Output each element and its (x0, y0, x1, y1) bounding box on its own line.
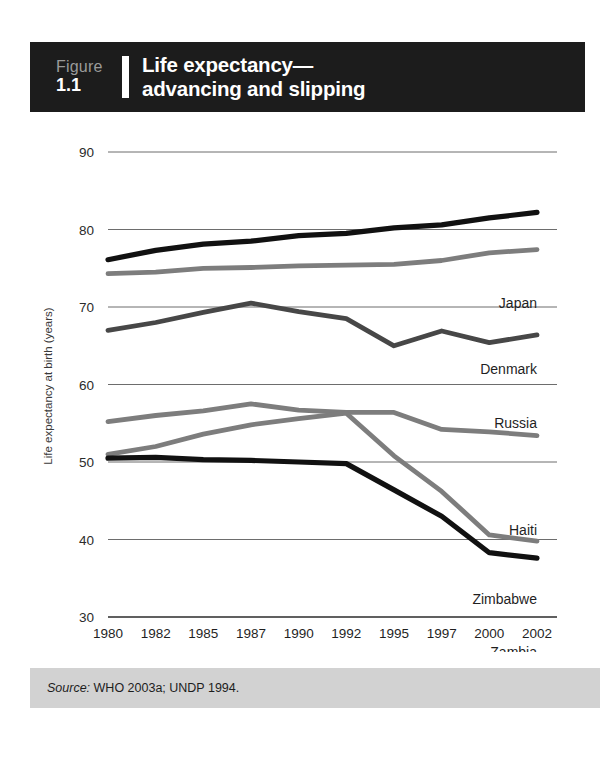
x-axis-tick-labels: 1980198219851987199019921995199720002002 (93, 626, 552, 641)
line-chart: 90807060504030 JapanDenmarkRussiaHaitiZi… (0, 112, 604, 652)
figure-card: Figure 1.1 Life expectancy— advancing an… (0, 0, 604, 757)
figure-header-bar: Figure 1.1 Life expectancy— advancing an… (30, 42, 585, 112)
x-tick-1997: 1997 (427, 626, 457, 641)
source-note: Source: WHO 2003a; UNDP 1994. (30, 681, 239, 695)
figure-title-line-2: advancing and slipping (142, 77, 365, 101)
y-tick-80: 80 (79, 223, 94, 238)
series-line-haiti (108, 404, 537, 436)
gridlines-group (108, 152, 557, 617)
series-line-denmark (108, 250, 537, 274)
series-line-zambia (108, 457, 537, 558)
series-label-zimbabwe: Zimbabwe (472, 591, 537, 607)
figure-number: 1.1 (56, 76, 122, 95)
x-tick-1992: 1992 (331, 626, 361, 641)
x-tick-2002: 2002 (522, 626, 552, 641)
chart-region: Life expectancy at birth (years) 9080706… (0, 112, 604, 652)
y-tick-50: 50 (79, 455, 94, 470)
series-label-haiti: Haiti (509, 522, 537, 538)
series-labels-group: JapanDenmarkRussiaHaitiZimbabweZambia (472, 295, 538, 652)
y-tick-30: 30 (79, 610, 94, 625)
source-band: Source: WHO 2003a; UNDP 1994. (30, 668, 600, 708)
y-tick-40: 40 (79, 533, 94, 548)
x-tick-1995: 1995 (379, 626, 409, 641)
series-label-zambia: Zambia (490, 644, 537, 652)
y-axis-tick-labels: 90807060504030 (79, 145, 94, 625)
figure-number-block: Figure 1.1 (30, 59, 122, 96)
y-tick-90: 90 (79, 145, 94, 160)
x-tick-2000: 2000 (474, 626, 504, 641)
source-label: Source: (47, 681, 90, 695)
y-tick-60: 60 (79, 378, 94, 393)
series-line-japan (108, 212, 537, 259)
y-tick-70: 70 (79, 300, 94, 315)
figure-title-line-1: Life expectancy— (142, 53, 365, 77)
x-tick-1987: 1987 (236, 626, 266, 641)
figure-word-label: Figure (56, 59, 122, 76)
x-tick-1990: 1990 (284, 626, 314, 641)
series-label-denmark: Denmark (480, 361, 538, 377)
figure-title: Life expectancy— advancing and slipping (142, 53, 365, 101)
x-tick-1980: 1980 (93, 626, 123, 641)
series-line-russia (108, 303, 537, 346)
series-label-russia: Russia (494, 415, 537, 431)
header-divider-bar (122, 56, 129, 98)
series-group (108, 212, 537, 558)
series-label-japan: Japan (499, 295, 537, 311)
source-citation: WHO 2003a; UNDP 1994. (90, 681, 239, 695)
x-tick-1982: 1982 (141, 626, 171, 641)
x-tick-1985: 1985 (188, 626, 218, 641)
